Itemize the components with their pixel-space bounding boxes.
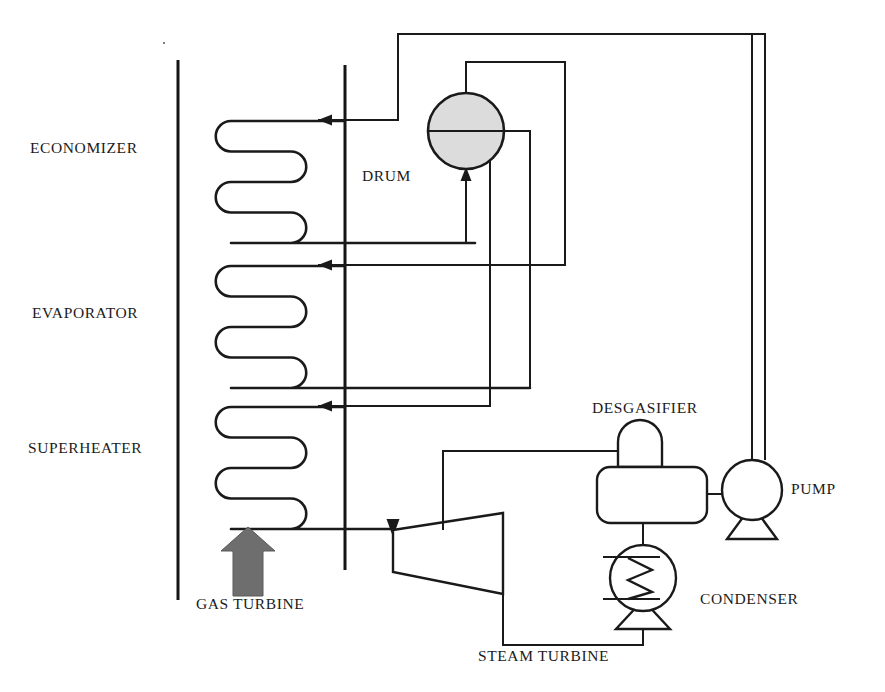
condenser-shell [610, 545, 676, 611]
evaporator-tube-bundle [216, 266, 530, 388]
pipe-pump-to-economizer [318, 34, 765, 460]
label-pump: PUMP [791, 481, 836, 497]
label-gas-turbine: GAS TURBINE [196, 596, 304, 612]
desgasifier-tank [597, 467, 707, 523]
pipe-economizer-to-drum [461, 167, 476, 243]
hrsg-casing-boundary [178, 60, 345, 600]
gas-turbine-exhaust [221, 527, 275, 596]
label-desgasifier: DESGASIFIER [592, 400, 698, 416]
evaporator-inlet-arrowhead [318, 260, 332, 271]
evaporator-return-line [504, 131, 530, 388]
steam-turbine [393, 513, 503, 594]
pipe-evaporator-to-drum [504, 131, 530, 388]
process-flow-diagram: ECONOMIZER EVAPORATOR SUPERHEATER DRUM D… [0, 0, 885, 692]
condenser [603, 545, 676, 629]
steam-drum [428, 93, 504, 169]
label-economizer: ECONOMIZER [30, 140, 138, 156]
gas-turbine-arrow-icon [221, 527, 275, 596]
label-drum: DRUM [362, 168, 411, 184]
label-superheater: SUPERHEATER [28, 440, 142, 456]
label-steam-turbine: STEAM TURBINE [478, 648, 609, 664]
turbine-body [393, 513, 503, 594]
evaporator-coil [216, 266, 530, 388]
economizer-inlet-arrowhead [318, 115, 332, 126]
superheater-inlet-arrowhead [318, 401, 332, 412]
feed-pump [722, 460, 782, 539]
superheater-tube-bundle [216, 407, 393, 529]
pump-casing [722, 460, 782, 520]
drum-feed-riser-line [466, 178, 475, 243]
feedwater-supply-line [318, 34, 765, 460]
desgasifier [597, 420, 707, 523]
schematic-canvas [0, 0, 885, 692]
superheater-coil [216, 407, 393, 529]
label-condenser: CONDENSER [700, 591, 798, 607]
label-evaporator: EVAPORATOR [32, 305, 138, 321]
evaporator-supply-line [318, 62, 565, 265]
desgasifier-dome [618, 420, 662, 467]
pipe-drum-to-evaporator [318, 62, 565, 271]
